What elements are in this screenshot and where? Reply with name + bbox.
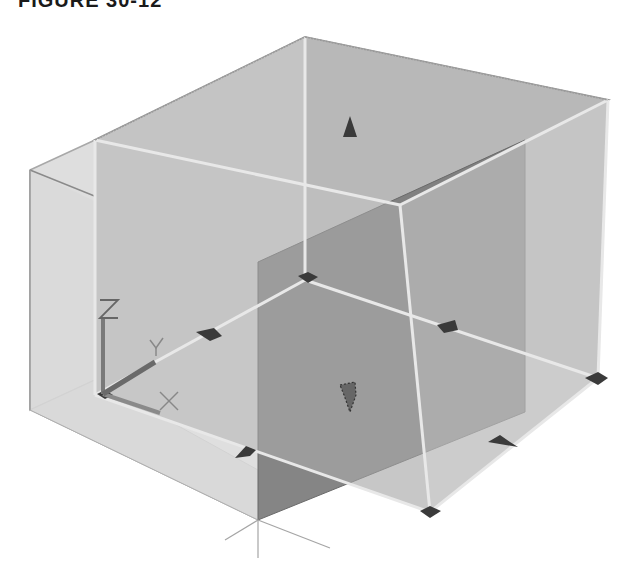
3d-box-section-diagram	[0, 0, 628, 572]
section-extension-lines	[225, 520, 330, 558]
